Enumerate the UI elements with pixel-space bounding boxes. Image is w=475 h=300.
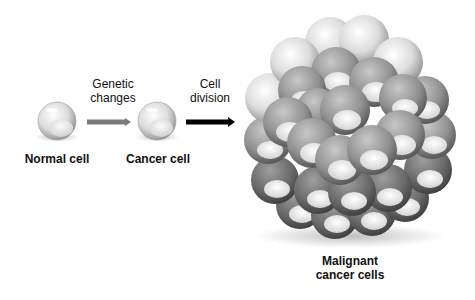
genetic-changes-line1: Genetic: [84, 77, 142, 91]
normal-cell-icon: [35, 102, 79, 142]
normal-cell-label: Normal cell: [24, 152, 90, 166]
malignant-line2: cancer cells: [310, 268, 390, 282]
cell-division-label: Cell division: [185, 77, 235, 105]
cell-division-line2: division: [185, 91, 235, 105]
cancer-cell-label: Cancer cell: [126, 152, 190, 166]
malignant-line1: Malignant: [310, 254, 390, 268]
malignant-cells-label: Malignant cancer cells: [310, 254, 390, 282]
malignant-cluster-icon: [244, 15, 456, 248]
cell-division-line1: Cell: [185, 77, 235, 91]
cancer-cell-icon: [135, 102, 179, 142]
genetic-changes-label: Genetic changes: [84, 77, 142, 105]
diagram-canvas: [0, 0, 475, 300]
genetic-changes-line2: changes: [84, 91, 142, 105]
